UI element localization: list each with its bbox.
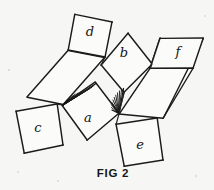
shape-label-c: c [34, 120, 42, 135]
shape-d: d [68, 14, 112, 57]
shape-f: f [150, 38, 203, 68]
shape-label-a: a [84, 110, 92, 125]
shape-label-b: b [120, 45, 128, 60]
shape-c: c [16, 104, 63, 153]
shape-label-e: e [136, 137, 144, 152]
shape-e: e [116, 118, 163, 166]
figure-caption: FIG 2 [97, 167, 129, 179]
shape-label-d: d [86, 24, 94, 39]
figure-container: d b f c [0, 0, 214, 190]
figure-drawing: d b f c [0, 0, 214, 190]
